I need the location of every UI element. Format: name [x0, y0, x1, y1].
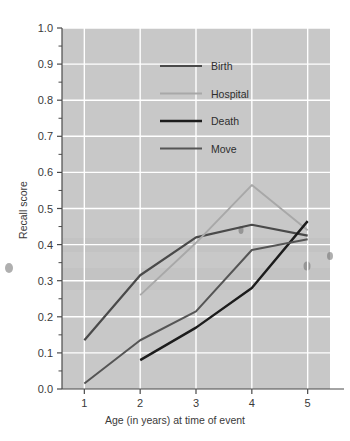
y-tick-label: 0.4 — [38, 239, 53, 251]
legend-label-move: Move — [211, 143, 237, 155]
x-tick-label: 3 — [193, 397, 199, 409]
y-tick-label: 0.2 — [38, 311, 53, 323]
y-tick-label: 0.3 — [38, 275, 53, 287]
x-tick-label: 1 — [81, 397, 87, 409]
legend-label-death: Death — [211, 115, 239, 127]
y-tick-label: 0.6 — [38, 166, 53, 178]
y-tick-label: 0.0 — [38, 383, 53, 395]
recall-score-line-chart: 0.00.10.20.30.40.50.60.70.80.91.0 12345 … — [0, 0, 350, 441]
y-tick-label: 0.8 — [38, 94, 53, 106]
y-tick-label: 0.1 — [38, 347, 53, 359]
x-tick-label: 4 — [249, 397, 255, 409]
y-tick-label: 0.7 — [38, 130, 53, 142]
legend-label-birth: Birth — [211, 60, 233, 72]
y-tick-label: 0.9 — [38, 58, 53, 70]
x-tick-label: 5 — [305, 397, 311, 409]
legend-label-hospital: Hospital — [211, 88, 249, 100]
y-tick-label: 0.5 — [38, 203, 53, 215]
y-tick-label: 1.0 — [38, 22, 53, 34]
y-axis-title: Recall score — [17, 181, 29, 239]
x-tick-label: 2 — [137, 397, 143, 409]
x-axis-title: Age (in years) at time of event — [105, 414, 245, 426]
chart-figure: 0.00.10.20.30.40.50.60.70.80.91.0 12345 … — [0, 0, 350, 441]
